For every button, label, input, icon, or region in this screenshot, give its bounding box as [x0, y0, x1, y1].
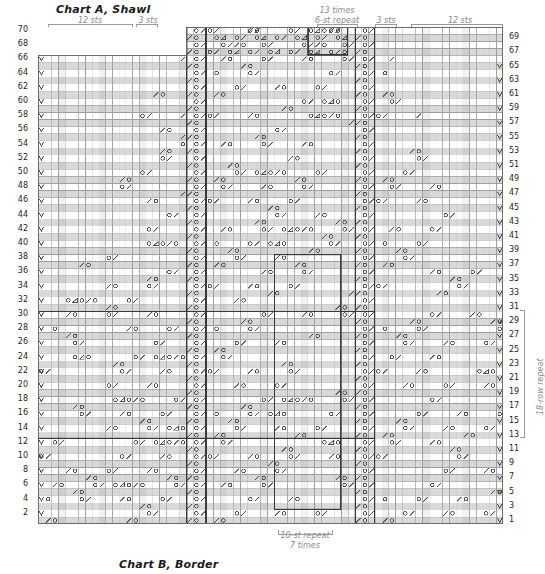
row-number-right-53: 53 — [509, 147, 531, 154]
row-number-left-24: 24 — [8, 353, 28, 360]
row-number-left-68: 68 — [8, 40, 28, 47]
row-number-right-57: 57 — [509, 118, 531, 125]
row-number-right-5: 5 — [509, 488, 531, 495]
row-number-right-41: 41 — [509, 232, 531, 239]
annotation-13-times: 13 times — [307, 6, 367, 15]
row-number-right-61: 61 — [509, 90, 531, 97]
row-number-left-52: 52 — [8, 154, 28, 161]
row-number-left-62: 62 — [8, 83, 28, 90]
row-number-right-31: 31 — [509, 303, 531, 310]
row-number-right-69: 69 — [509, 33, 531, 40]
row-number-left-70: 70 — [8, 26, 28, 33]
row-number-right-47: 47 — [509, 189, 531, 196]
row-number-right-1: 1 — [509, 516, 531, 523]
row-number-left-48: 48 — [8, 182, 28, 189]
row-number-right-17: 17 — [509, 402, 531, 409]
row-number-left-56: 56 — [8, 125, 28, 132]
row-number-right-65: 65 — [509, 62, 531, 69]
annotation-7-times: 7 times — [280, 541, 330, 550]
row-number-left-22: 22 — [8, 367, 28, 374]
row-number-left-54: 54 — [8, 140, 28, 147]
row-number-left-46: 46 — [8, 196, 28, 203]
row-number-left-38: 38 — [8, 253, 28, 260]
row-number-left-36: 36 — [8, 267, 28, 274]
row-number-right-35: 35 — [509, 275, 531, 282]
row-number-right-23: 23 — [509, 360, 531, 367]
row-number-right-39: 39 — [509, 246, 531, 253]
row-number-right-7: 7 — [509, 473, 531, 480]
row-number-left-60: 60 — [8, 97, 28, 104]
row-number-left-20: 20 — [8, 381, 28, 388]
row-number-right-45: 45 — [509, 204, 531, 211]
row-number-left-8: 8 — [8, 466, 28, 473]
chart-canvas[interactable] — [38, 27, 503, 524]
row-number-right-9: 9 — [509, 459, 531, 466]
row-number-right-29: 29 — [509, 317, 531, 324]
row-number-right-25: 25 — [509, 346, 531, 353]
row-number-left-2: 2 — [8, 509, 28, 516]
row-number-left-30: 30 — [8, 310, 28, 317]
row-number-right-13: 13 — [509, 431, 531, 438]
row-number-right-15: 15 — [509, 417, 531, 424]
row-number-right-49: 49 — [509, 175, 531, 182]
row-number-left-16: 16 — [8, 409, 28, 416]
bracket-left-3-sts-line — [136, 24, 158, 25]
chart-b-title: Chart B, Border — [119, 558, 218, 571]
row-number-left-44: 44 — [8, 211, 28, 218]
annotation-18-row-repeat: 18-row repeat — [536, 358, 545, 415]
row-number-right-59: 59 — [509, 104, 531, 111]
row-number-left-66: 66 — [8, 54, 28, 61]
row-number-right-51: 51 — [509, 161, 531, 168]
row-number-right-55: 55 — [509, 133, 531, 140]
row-number-left-50: 50 — [8, 168, 28, 175]
row-number-left-4: 4 — [8, 495, 28, 502]
row-number-right-27: 27 — [509, 331, 531, 338]
row-number-right-63: 63 — [509, 76, 531, 83]
row-number-right-37: 37 — [509, 260, 531, 267]
row-number-left-18: 18 — [8, 395, 28, 402]
bracket-10-st-repeat-tick-b — [332, 530, 333, 535]
knitting-chart-grid[interactable] — [38, 27, 503, 524]
row-number-right-43: 43 — [509, 218, 531, 225]
chart-a-title: Chart A, Shawl — [56, 3, 150, 16]
row-number-left-64: 64 — [8, 69, 28, 76]
row-number-left-34: 34 — [8, 282, 28, 289]
annotation-10-st-repeat: 10-st repeat — [265, 531, 345, 540]
row-number-left-12: 12 — [8, 438, 28, 445]
row-number-left-40: 40 — [8, 239, 28, 246]
bracket-18-row-repeat-tick-a — [520, 310, 525, 311]
bracket-right-12-sts-line — [411, 24, 503, 25]
row-number-left-14: 14 — [8, 424, 28, 431]
row-number-left-42: 42 — [8, 225, 28, 232]
bracket-10-st-repeat-tick-a — [278, 530, 279, 535]
row-number-right-67: 67 — [509, 47, 531, 54]
row-number-right-19: 19 — [509, 388, 531, 395]
bracket-left-12-sts-line — [48, 24, 133, 25]
row-number-left-26: 26 — [8, 338, 28, 345]
row-number-right-33: 33 — [509, 289, 531, 296]
row-number-right-11: 11 — [509, 445, 531, 452]
row-number-left-6: 6 — [8, 480, 28, 487]
bracket-6-st-repeat-line — [317, 24, 358, 25]
bracket-right-3-sts-line — [375, 24, 397, 25]
row-number-left-32: 32 — [8, 296, 28, 303]
row-number-left-28: 28 — [8, 324, 28, 331]
row-number-right-3: 3 — [509, 502, 531, 509]
row-number-right-21: 21 — [509, 374, 531, 381]
bracket-10-st-repeat-line — [278, 534, 333, 535]
row-number-left-58: 58 — [8, 111, 28, 118]
row-number-left-10: 10 — [8, 452, 28, 459]
